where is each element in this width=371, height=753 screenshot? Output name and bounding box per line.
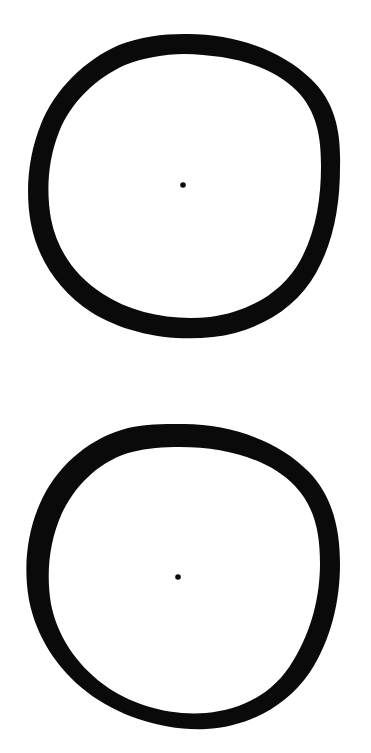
- drawing-canvas: Two hand-drawn thick circles with center…: [0, 0, 371, 753]
- circles-figure: [0, 0, 371, 753]
- circle-bottom-center-dot: [175, 574, 181, 580]
- circle-top-center-dot: [180, 182, 186, 188]
